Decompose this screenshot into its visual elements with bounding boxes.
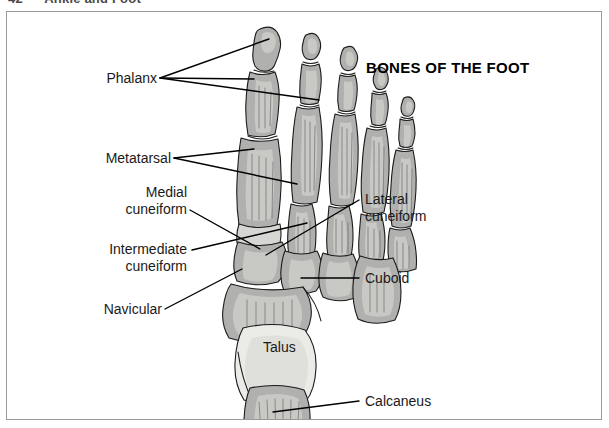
label-cuboid: Cuboid (365, 270, 409, 287)
running-head: 42 Ankle and Foot (8, 0, 141, 7)
label-phalanx-line1: Phalanx (7, 70, 157, 87)
label-medial-cuneiform-line2: cuneiform (7, 201, 187, 218)
leader-phalanx-3 (160, 78, 319, 100)
label-lateral-cuneiform-line1: Lateral (365, 191, 426, 208)
label-metatarsal-line1: Metatarsal (7, 150, 171, 167)
toe-2-group (291, 33, 322, 204)
label-intermediate-cuneiform-line1: Intermediate (7, 241, 187, 258)
figure-page: 42 Ankle and Foot (0, 0, 609, 428)
running-head-section-title: Ankle and Foot (44, 0, 141, 6)
label-navicular-line1: Navicular (7, 301, 162, 318)
label-intermediate-cuneiform-line2: cuneiform (7, 258, 187, 275)
figure-title: BONES OF THE FOOT (366, 59, 529, 76)
running-head-page-number: 42 (8, 0, 23, 6)
label-phalanx: Phalanx (7, 70, 157, 87)
talus-inline-label: Talus (263, 339, 296, 355)
calcaneus-group (244, 385, 310, 420)
label-cuboid-line1: Cuboid (365, 270, 409, 287)
toe-3-group (329, 46, 358, 206)
label-medial-cuneiform-line1: Medial (7, 184, 187, 201)
label-calcaneus: Calcaneus (365, 393, 431, 410)
label-medial-cuneiform: Medial cuneiform (7, 184, 187, 218)
great-toe-group (246, 27, 281, 139)
label-calcaneus-line1: Calcaneus (365, 393, 431, 410)
label-intermediate-cuneiform: Intermediate cuneiform (7, 241, 187, 275)
label-metatarsal: Metatarsal (7, 150, 171, 167)
label-lateral-cuneiform-line2: cuneiform (365, 208, 426, 225)
label-navicular: Navicular (7, 301, 162, 318)
figure-frame: Talus BONES OF THE FOOT Phalanx Metatars… (6, 11, 602, 420)
leader-phalanx-2 (160, 78, 254, 79)
label-lateral-cuneiform: Lateral cuneiform (365, 191, 426, 225)
